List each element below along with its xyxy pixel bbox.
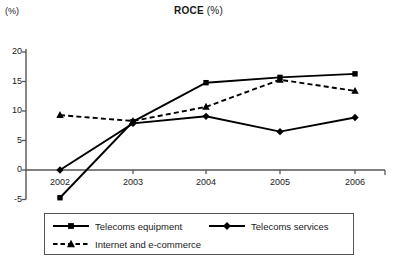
data-point-diamond-marker [202,113,209,120]
data-point-square-marker [57,195,62,200]
chart-legend: Telecoms equipment Telecoms services Int… [44,213,354,255]
legend-key-triangle-dashed-icon [51,237,91,251]
x-tick-label: 2004 [184,178,228,187]
y-tick-label: -5 [2,195,22,204]
legend-item-internet-and-ecommerce: Internet and e-commerce [51,236,201,252]
legend-item-telecoms-equipment: Telecoms equipment [51,218,182,234]
y-tick-label: 15 [2,77,22,86]
series-telecoms-services [56,113,358,174]
data-point-square-marker [203,80,208,85]
x-tick-label: 2003 [111,178,155,187]
y-tick-label: 5 [2,136,22,145]
x-axis-ticks [133,170,385,175]
x-tick-label: 2006 [333,178,377,187]
x-tick-label: 2005 [258,178,302,187]
y-tick-label: 10 [2,106,22,115]
y-tick-label: 0 [2,165,22,174]
legend-key-square-solid-icon [51,219,91,233]
legend-label: Internet and e-commerce [91,239,201,250]
legend-label: Telecoms equipment [91,221,182,232]
y-tick-label: 20 [2,47,22,56]
legend-key-diamond-solid-icon [207,219,247,233]
data-point-diamond-marker [276,128,283,135]
data-point-diamond-marker [223,222,231,230]
x-tick-label: 2002 [38,178,82,187]
data-point-square-marker [352,71,357,76]
data-point-diamond-marker [351,114,358,121]
series-line [60,116,355,170]
legend-label: Telecoms services [247,221,329,232]
data-point-square-marker [68,223,74,229]
legend-item-telecoms-services: Telecoms services [207,218,329,234]
roce-chart: (%) ROCE (%) -50510152020022003200420052… [0,0,397,261]
